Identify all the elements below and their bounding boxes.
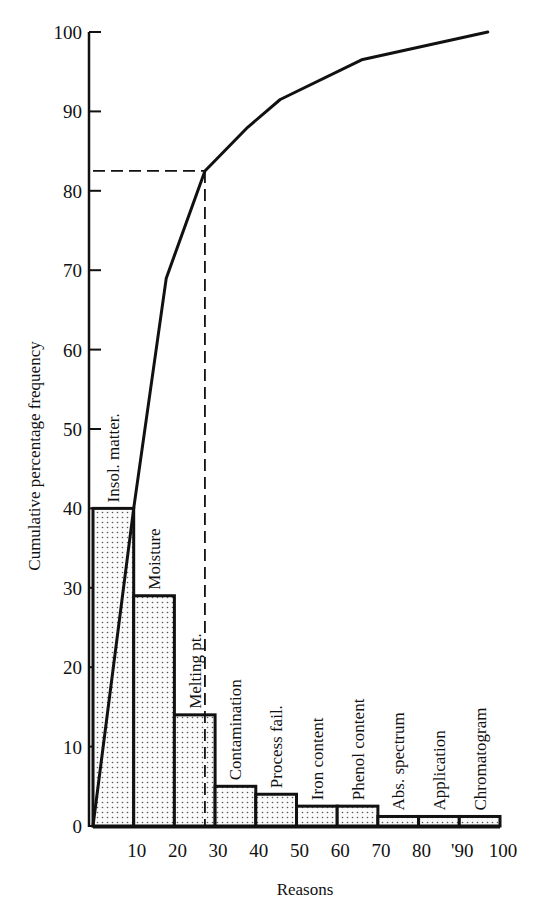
bar bbox=[337, 806, 378, 826]
bar-label: Melting pt. bbox=[186, 633, 205, 709]
bar-label: Contamination bbox=[226, 679, 245, 781]
bar-label: Chromatogram bbox=[471, 708, 490, 811]
y-tick-label: 40 bbox=[63, 498, 82, 519]
bar-label: Insol. matter. bbox=[104, 413, 123, 502]
x-axis-title: Reasons bbox=[277, 880, 334, 899]
x-tick-label: 10 bbox=[127, 840, 146, 861]
x-tick-label: 30 bbox=[209, 840, 228, 861]
x-axis-ticks: 1020304050607080'90100 bbox=[127, 840, 517, 861]
x-tick-label: 100 bbox=[489, 840, 518, 861]
y-axis-title: Cumulative percentage frequency bbox=[25, 341, 44, 571]
bar bbox=[419, 816, 460, 826]
bar-label: Moisture bbox=[145, 528, 164, 589]
bar bbox=[174, 715, 215, 826]
y-tick-label: 60 bbox=[63, 340, 82, 361]
bar-label: Process fail. bbox=[267, 705, 286, 788]
y-tick-label: 0 bbox=[73, 816, 83, 837]
bar bbox=[215, 786, 256, 826]
x-tick-label: 70 bbox=[371, 840, 390, 861]
y-tick-label: 50 bbox=[63, 419, 82, 440]
x-tick-label: 20 bbox=[168, 840, 187, 861]
x-tick-label: 60 bbox=[331, 840, 350, 861]
bar-label: Application bbox=[430, 730, 449, 811]
x-tick-label: 80 bbox=[412, 840, 431, 861]
bar bbox=[256, 794, 297, 826]
x-tick-label: 50 bbox=[290, 840, 309, 861]
y-tick-label: 70 bbox=[63, 260, 82, 281]
bar-label: Phenol content bbox=[349, 698, 368, 800]
y-tick-label: 10 bbox=[63, 737, 82, 758]
pareto-chart: 0102030405060708090100 1020304050607080'… bbox=[0, 0, 535, 917]
x-tick-label: '90 bbox=[451, 840, 473, 861]
bar bbox=[459, 816, 500, 826]
bar-label: Iron content bbox=[308, 717, 327, 800]
y-tick-label: 30 bbox=[63, 578, 82, 599]
y-tick-label: 20 bbox=[63, 657, 82, 678]
y-tick-label: 90 bbox=[63, 101, 82, 122]
bar-series: Insol. matter.MoistureMelting pt.Contami… bbox=[93, 413, 500, 826]
y-tick-label: 80 bbox=[63, 181, 82, 202]
bar bbox=[297, 806, 338, 826]
bar bbox=[378, 816, 419, 826]
y-tick-label: 100 bbox=[54, 22, 83, 43]
bar bbox=[134, 596, 175, 826]
bar-label: Abs. spectrum bbox=[389, 712, 408, 810]
x-tick-label: 40 bbox=[249, 840, 268, 861]
